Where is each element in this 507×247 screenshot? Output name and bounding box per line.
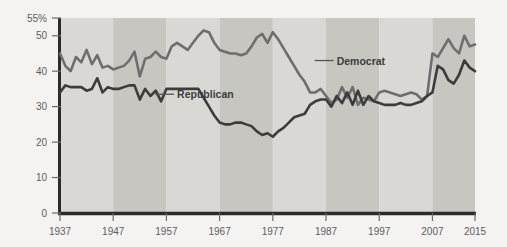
line-chart: 55%50403020100 1937194719571967197719871… (0, 0, 507, 247)
background-band (220, 18, 273, 213)
background-band (113, 18, 166, 213)
x-tick-label: 1947 (102, 226, 125, 237)
y-tick-label: 10 (36, 172, 48, 183)
x-tick-label: 2015 (464, 226, 487, 237)
y-tick-label: 20 (36, 137, 48, 148)
chart-container: 55%50403020100 1937194719571967197719871… (0, 0, 507, 247)
x-tick-label: 1937 (49, 226, 72, 237)
background-bands (60, 18, 475, 213)
x-tick-label: 1957 (155, 226, 178, 237)
x-tick-label: 1987 (315, 226, 338, 237)
y-tick-label: 40 (36, 66, 48, 77)
y-tick-label: 0 (41, 208, 47, 219)
background-band (60, 18, 113, 213)
series-label-republican: Republican (177, 88, 234, 100)
background-band (379, 18, 432, 213)
x-tick-label: 2007 (421, 226, 444, 237)
background-band (326, 18, 379, 213)
y-tick-label: 55% (27, 13, 47, 24)
series-label-democrat: Democrat (337, 55, 386, 67)
background-band (166, 18, 219, 213)
y-tick-label: 50 (36, 30, 48, 41)
x-tick-label: 1967 (208, 226, 231, 237)
x-tick-label: 1997 (368, 226, 391, 237)
y-tick-label: 30 (36, 101, 48, 112)
x-tick-label: 1977 (262, 226, 285, 237)
